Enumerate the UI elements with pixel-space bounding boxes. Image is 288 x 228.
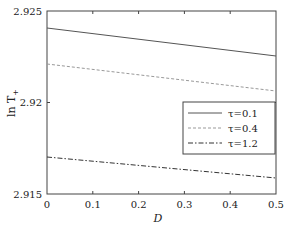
x-tick-label: 0.1 [85, 199, 101, 210]
x-tick-label: 0 [44, 199, 50, 210]
y-tick-label: 2.925 [13, 6, 42, 17]
svg-text:ln T+: ln T+ [5, 89, 20, 117]
y-axis-label-sub: + [11, 89, 20, 96]
chart: 0 0.1 0.2 0.3 0.4 0.5 2.915 2.92 2.925 D… [0, 0, 288, 228]
legend-label: τ=0.4 [228, 123, 258, 134]
x-tick-label: 0.2 [131, 199, 147, 210]
series-tau-1.2 [47, 157, 276, 178]
x-axis-label: D [153, 212, 163, 225]
x-tick-labels: 0 0.1 0.2 0.3 0.4 0.5 [44, 199, 284, 210]
series-tau-0.4 [47, 64, 276, 91]
y-axis-label: ln T+ [5, 89, 20, 117]
series-tau-0.1 [47, 28, 276, 56]
legend-label: τ=1.2 [228, 138, 258, 149]
y-tick-label: 2.92 [20, 97, 42, 108]
x-tick-label: 0.3 [176, 199, 192, 210]
y-tick-label: 2.915 [13, 189, 42, 200]
legend: τ=0.1 τ=0.4 τ=1.2 [183, 102, 275, 154]
x-tick-label: 0.4 [222, 199, 238, 210]
y-axis-label-main: ln T [5, 95, 18, 117]
legend-label: τ=0.1 [228, 108, 258, 119]
x-tick-label: 0.5 [268, 199, 284, 210]
